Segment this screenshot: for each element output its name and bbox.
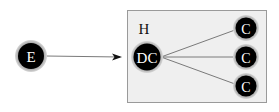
node-label-c-2: C bbox=[241, 51, 250, 66]
node-label-e: E bbox=[26, 49, 35, 65]
group-label-h: H bbox=[139, 21, 150, 37]
node-label-dc: DC bbox=[137, 50, 158, 66]
node-label-c-3: C bbox=[241, 80, 250, 95]
diagram-canvas: H E DC C C C bbox=[0, 0, 279, 112]
node-c-2[interactable]: C bbox=[233, 44, 259, 70]
node-e[interactable]: E bbox=[15, 40, 47, 72]
edge-e-to-dc bbox=[46, 56, 120, 57]
node-c-3[interactable]: C bbox=[233, 73, 259, 99]
node-dc[interactable]: DC bbox=[131, 41, 163, 73]
node-c-1[interactable]: C bbox=[233, 15, 259, 41]
node-label-c-1: C bbox=[241, 22, 250, 37]
